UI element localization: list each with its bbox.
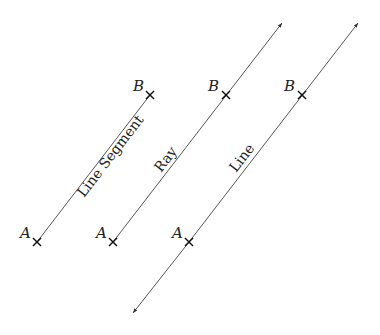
point-b-marker (222, 91, 230, 99)
point-b-label: B (283, 77, 295, 95)
point-a-marker (33, 238, 41, 246)
line-segment-figure: A B Line Segment (18, 77, 154, 246)
point-a-marker (185, 238, 193, 246)
point-b-label: B (207, 77, 219, 95)
line-backward (133, 242, 189, 313)
geometry-diagram: A B Line Segment A B Ray A B Line (0, 0, 380, 335)
ray-caption: Ray (151, 144, 180, 175)
point-b-marker (298, 91, 306, 99)
point-b-label: B (132, 77, 144, 95)
point-a-marker (109, 238, 117, 246)
point-a-label: A (18, 224, 31, 242)
point-a-label: A (170, 224, 183, 242)
point-a-label: A (94, 224, 107, 242)
segment-caption: Line Segment (74, 112, 147, 200)
ray-line (113, 23, 282, 242)
line-forward (189, 23, 358, 242)
point-b-marker (146, 91, 154, 99)
line-caption: Line (226, 140, 258, 174)
